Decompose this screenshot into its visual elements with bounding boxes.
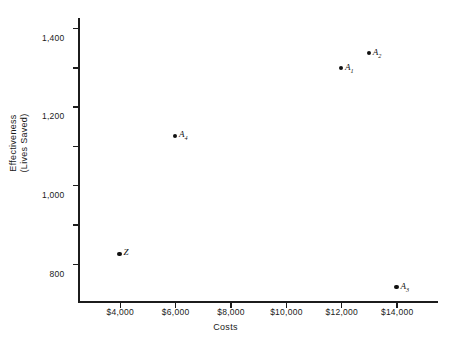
marker-A1 — [339, 66, 343, 70]
y-tick-600: 600 — [73, 185, 80, 186]
marker-Z — [117, 252, 121, 256]
y-tick-1400: 1,400 — [73, 28, 80, 29]
point-label-sub-A1: 1 — [351, 66, 354, 73]
point-label-A3: A3 — [400, 281, 409, 293]
x-tick-14000: $14,000 — [396, 301, 397, 308]
point-label-A4: A4 — [179, 129, 188, 141]
y-tick-400: 400 — [73, 224, 80, 225]
point-label-base-Z: Z — [124, 247, 129, 257]
x-tick-label-12000: $12,000 — [326, 307, 358, 317]
y-tick-1200: 1,200 — [73, 67, 80, 68]
x-axis-title: Costs — [0, 322, 451, 332]
y-axis-title-text: Effectiveness (Lives Saved) — [8, 113, 30, 172]
y-tick-label-800: 800 — [50, 269, 65, 279]
x-tick-label-4000: $4,000 — [106, 307, 134, 317]
scatter-chart: Effectiveness (Lives Saved) 200400600800… — [0, 0, 451, 345]
point-label-A1: A1 — [345, 62, 354, 74]
marker-A4 — [173, 134, 177, 138]
point-label-sub-A3: 3 — [406, 286, 409, 293]
x-tick-12000: $12,000 — [341, 301, 342, 308]
point-label-sub-A4: 4 — [184, 134, 187, 141]
point-label-Z: Z — [124, 247, 129, 257]
y-axis-title: Effectiveness (Lives Saved) — [8, 0, 30, 285]
plot-area: 2004006008001,0001,2001,400 $4,000$6,000… — [78, 18, 438, 303]
x-tick-4000: $4,000 — [120, 301, 121, 308]
x-tick-label-10000: $10,000 — [270, 307, 302, 317]
y-tick-label-1200: 1,200 — [42, 111, 65, 121]
y-axis-title-line1: Effectiveness — [8, 114, 18, 171]
y-tick-800: 800 — [73, 146, 80, 147]
x-tick-label-8000: $8,000 — [217, 307, 245, 317]
y-axis-line — [78, 18, 80, 303]
x-tick-label-14000: $14,000 — [381, 307, 413, 317]
x-tick-8000: $8,000 — [230, 301, 231, 308]
y-axis-title-line2: (Lives Saved) — [19, 113, 29, 172]
point-label-sub-A2: 2 — [378, 52, 381, 59]
y-tick-label-1400: 1,400 — [42, 33, 65, 43]
marker-A3 — [394, 285, 398, 289]
point-label-A2: A2 — [373, 47, 382, 59]
x-tick-6000: $6,000 — [175, 301, 176, 308]
y-tick-200: 200 — [73, 264, 80, 265]
marker-A2 — [367, 51, 371, 55]
y-tick-label-1000: 1,000 — [42, 190, 65, 200]
y-tick-1000: 1,000 — [73, 106, 80, 107]
x-axis-line — [78, 301, 438, 303]
x-tick-label-6000: $6,000 — [162, 307, 190, 317]
x-tick-10000: $10,000 — [286, 301, 287, 308]
